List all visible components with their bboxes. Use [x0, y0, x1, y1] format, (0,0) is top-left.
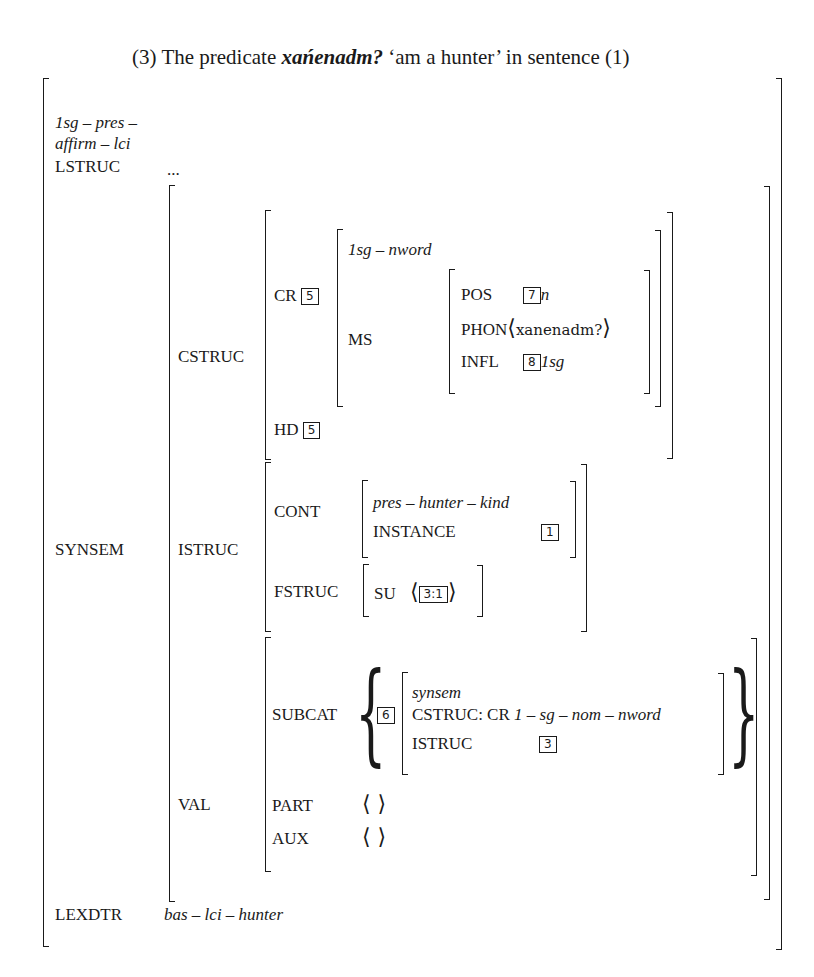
fstruc-bracket-left: [363, 564, 369, 617]
istruc-label: ISTRUC: [178, 540, 238, 560]
caption-suffix: in sentence (1): [506, 45, 630, 69]
caption-gloss: ‘am a hunter’: [388, 45, 500, 69]
caption-word: xańenadm?: [281, 45, 383, 69]
cstruc-label: CSTRUC: [178, 347, 244, 367]
angle-open-icon: ⟨: [507, 315, 516, 340]
lstruc-value: ...: [167, 160, 180, 180]
tag-box: 7: [523, 287, 541, 304]
outer-bracket-right: [776, 78, 782, 950]
angle-open-icon: ⟨: [410, 579, 419, 604]
aux-value: ⟨ ⟩: [362, 824, 386, 849]
cr-bracket-right: [655, 230, 661, 407]
infl-value: 1sg: [541, 352, 565, 371]
val-label: VAL: [178, 795, 211, 815]
cont-bracket-right: [570, 481, 576, 558]
caption-prefix: The predicate: [161, 45, 276, 69]
instance-label: INSTANCE: [373, 522, 541, 542]
caption-number: (3): [132, 45, 157, 69]
fstruc-label: FSTRUC: [274, 582, 338, 602]
cr-label-text: CR: [274, 286, 297, 305]
subcat-type: synsem: [412, 683, 461, 703]
figure-caption: (3) The predicate xańenadm? ‘am a hunter…: [132, 45, 629, 69]
subcat-istruc-label: ISTRUC: [412, 734, 539, 754]
tag-box: 3:1: [419, 586, 448, 603]
tag-box: 5: [303, 422, 321, 439]
tag-box: 6: [377, 707, 395, 724]
phon-label: PHON: [461, 320, 507, 339]
lexdtr-label: LEXDTR: [55, 905, 122, 925]
tag-box: 1: [541, 524, 559, 541]
ms-bracket-left: [449, 269, 455, 394]
lexdtr-value: bas – lci – hunter: [164, 905, 283, 925]
val-bracket-left: [265, 637, 271, 872]
subcat-bracket-right: [718, 673, 724, 775]
brace-close-icon: }: [728, 658, 760, 768]
cr-label: CR 5: [274, 286, 319, 306]
cr-type: 1sg – nword: [348, 240, 431, 260]
hd-row: HD 5: [274, 420, 320, 440]
infl-label: INFL: [461, 352, 523, 372]
istruc-bracket-left: [265, 462, 271, 632]
pos-value: n: [541, 285, 550, 304]
ms-bracket-right: [644, 270, 650, 394]
subcat-bracket-left: [402, 672, 408, 775]
part-value: ⟨ ⟩: [362, 791, 386, 816]
subcat-label: SUBCAT: [272, 705, 337, 725]
cont-type: pres – hunter – kind: [373, 493, 509, 513]
ms-label: MS: [348, 330, 373, 350]
cont-label: CONT: [274, 502, 320, 522]
synsem-bracket-left: [169, 185, 175, 902]
part-label: PART: [272, 796, 362, 816]
phon-row: PHON⟨xanenadm?⟩: [461, 318, 611, 340]
su-label: SU: [374, 584, 410, 604]
angle-close-icon: ⟩: [602, 315, 611, 340]
cont-bracket-left: [362, 480, 368, 558]
pos-label: POS: [461, 285, 523, 305]
subcat-cstruc-label: CSTRUC: CR: [412, 705, 510, 724]
synsem-label: SYNSEM: [55, 540, 124, 560]
tag-box: 3: [539, 736, 557, 753]
infl-row: INFL81sg: [461, 352, 564, 372]
lstruc-label: LSTRUC: [55, 157, 120, 177]
subcat-tag: 6: [377, 705, 395, 725]
istruc-bracket-right: [581, 464, 587, 632]
outer-bracket-left: [43, 78, 49, 947]
instance-row: INSTANCE1: [373, 522, 559, 542]
tag-box: 5: [301, 288, 319, 305]
angle-close-icon: ⟩: [448, 579, 457, 604]
fstruc-bracket-right: [477, 565, 483, 617]
tag-box: 8: [523, 354, 541, 371]
hd-label: HD: [274, 420, 299, 439]
aux-label: AUX: [272, 829, 362, 849]
part-row: PART⟨ ⟩: [272, 794, 386, 816]
phon-value: xanenadm?: [516, 321, 602, 339]
avm-type-line2: affirm – lci: [55, 134, 131, 154]
pos-row: POS7n: [461, 285, 549, 305]
cstruc-bracket-left: [265, 210, 271, 460]
synsem-bracket-right: [764, 186, 770, 900]
cstruc-bracket-right: [667, 212, 673, 459]
subcat-cstruc-row: CSTRUC: CR 1 – sg – nom – nword: [412, 705, 661, 725]
subcat-istruc-row: ISTRUC3: [412, 734, 557, 754]
cr-bracket-left: [337, 229, 343, 407]
aux-row: AUX⟨ ⟩: [272, 827, 386, 849]
subcat-cstruc-value: 1 – sg – nom – nword: [514, 705, 661, 724]
su-row: SU⟨3:1⟩: [374, 582, 457, 604]
avm-type-line1: 1sg – pres –: [55, 113, 137, 133]
